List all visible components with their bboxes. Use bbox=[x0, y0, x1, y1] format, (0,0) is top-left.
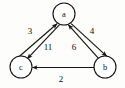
node-a[interactable]: a bbox=[53, 3, 75, 25]
edge-weight-a-to-c: 11 bbox=[44, 42, 53, 52]
node-b[interactable]: b bbox=[94, 56, 116, 78]
edge-weight-b-to-a: 6 bbox=[72, 42, 77, 52]
node-c-label: c bbox=[19, 62, 23, 72]
edge-weights-group: 3 11 6 4 2 bbox=[28, 26, 95, 84]
node-a-label: a bbox=[62, 9, 66, 19]
graph-diagram-canvas: a c b 3 11 6 4 2 bbox=[0, 0, 125, 88]
edge-weight-c-to-a: 3 bbox=[28, 26, 33, 36]
graph-svg: a c b 3 11 6 4 2 bbox=[0, 0, 125, 88]
nodes-group: a c b bbox=[10, 3, 116, 78]
edge-weight-b-to-c: 2 bbox=[59, 74, 64, 84]
node-b-label: b bbox=[103, 62, 107, 72]
node-c[interactable]: c bbox=[10, 56, 32, 78]
edge-weight-a-to-b: 4 bbox=[90, 26, 95, 36]
